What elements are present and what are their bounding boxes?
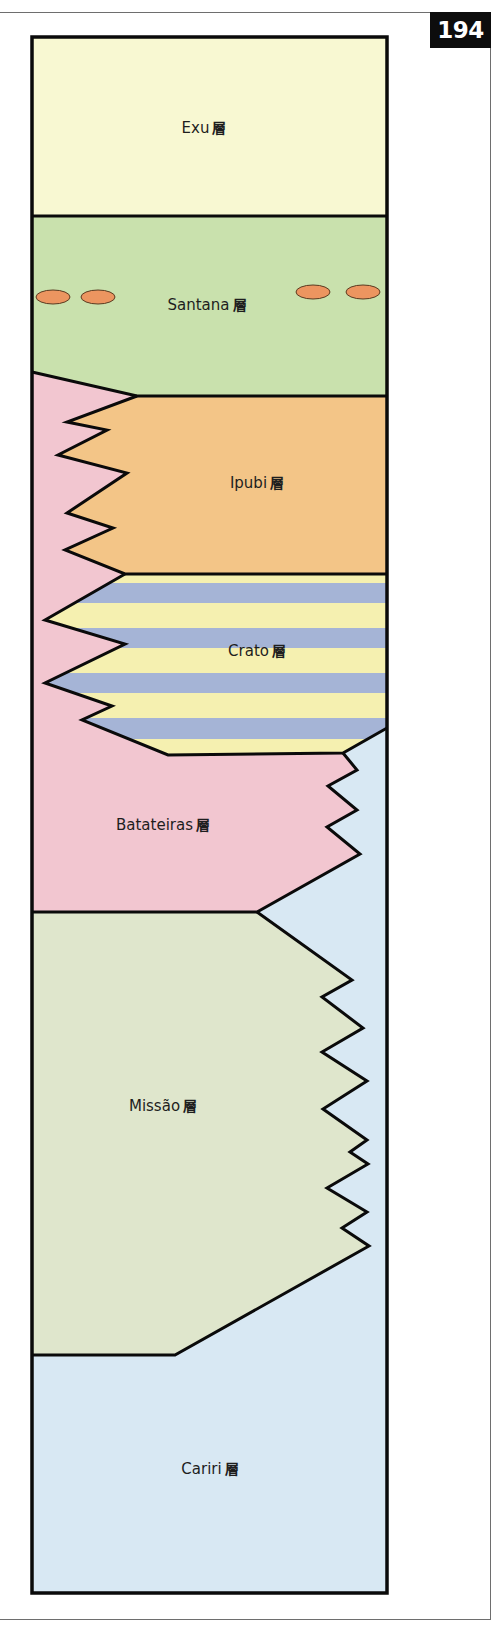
layer-label-batateiras: Batateiras層: [116, 814, 210, 834]
formation-suffix: 層: [212, 120, 226, 136]
layer-name: Ipubi: [230, 474, 267, 492]
formation-suffix: 層: [272, 643, 286, 659]
layer-name: Batateiras: [116, 816, 193, 834]
layer-label-santana: Santana層: [168, 294, 247, 314]
layer-name: Santana: [168, 296, 230, 314]
layer-name: Missão: [129, 1097, 180, 1115]
formation-suffix: 層: [270, 475, 284, 491]
formation-suffix: 層: [196, 817, 210, 833]
layer-name: Crato: [228, 642, 269, 660]
concretion-nodule: [81, 290, 115, 304]
layer-name: Exu: [182, 119, 210, 137]
layer-label-crato: Crato層: [228, 640, 286, 660]
concretion-nodule: [346, 285, 380, 299]
layer-label-missao: Missão層: [129, 1095, 197, 1115]
formation-suffix: 層: [233, 297, 247, 313]
layer-name: Cariri: [181, 1460, 221, 1478]
formation-suffix: 層: [183, 1098, 197, 1114]
concretion-nodule: [296, 285, 330, 299]
concretion-nodule: [36, 290, 70, 304]
stratigraphic-column: [0, 0, 503, 1636]
layer-label-exu: Exu層: [182, 117, 227, 137]
formation-suffix: 層: [225, 1461, 239, 1477]
layer-label-cariri: Cariri層: [181, 1458, 238, 1478]
layer-label-ipubi: Ipubi層: [230, 472, 284, 492]
